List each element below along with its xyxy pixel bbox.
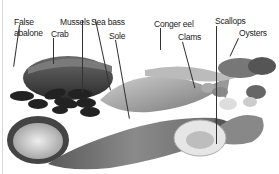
leader-crab xyxy=(53,38,54,64)
label-clams: Clams xyxy=(178,33,201,42)
label-false-abalone: False abalone xyxy=(14,18,43,38)
leader-mussels xyxy=(82,20,83,92)
label-sole: Sole xyxy=(109,32,125,41)
label-conger-eel: Conger eel xyxy=(154,20,194,29)
label-false-abalone-line2: abalone xyxy=(14,29,43,38)
leader-scallops xyxy=(216,26,217,144)
crab-shape xyxy=(23,56,113,100)
label-sea-bass: Sea bass xyxy=(91,18,125,27)
label-oysters: Oysters xyxy=(239,29,267,38)
label-mussels: Mussels xyxy=(60,18,90,27)
label-crab: Crab xyxy=(51,30,69,39)
leader-conger-eel xyxy=(160,28,161,50)
label-false-abalone-line1: False xyxy=(14,18,43,27)
mussels-shape xyxy=(10,86,100,117)
label-scallops: Scallops xyxy=(215,17,246,26)
